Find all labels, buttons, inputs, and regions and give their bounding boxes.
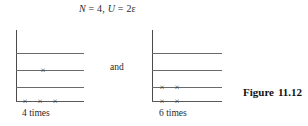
right-particle-marker: × [159, 97, 166, 106]
right-particle-marker: × [174, 97, 181, 106]
left-vertical-axis [16, 30, 17, 102]
figure-title: N = 4, U = 2ε [0, 3, 215, 14]
left-level-4 [16, 53, 84, 54]
left-energy-level-diagram: × × × × [16, 30, 84, 102]
right-particle-marker: × [174, 83, 181, 92]
title-energy-symbol: U [108, 3, 115, 14]
right-energy-level-diagram: × × × × [152, 30, 222, 102]
left-particle-marker: × [22, 97, 29, 106]
title-energy-value: = 2ε [118, 3, 136, 14]
left-level-3 [16, 70, 84, 71]
right-particle-marker: × [159, 83, 166, 92]
left-particle-marker: × [40, 66, 47, 75]
right-vertical-axis [152, 30, 153, 102]
figure-number-label: Figure [243, 86, 274, 98]
title-particles-symbol: N [79, 3, 86, 14]
right-diagram-caption: 6 times [159, 108, 187, 118]
figure-number: Figure11.12 [243, 86, 302, 98]
title-particles-value: = 4, [89, 3, 105, 14]
left-particle-marker: × [52, 97, 59, 106]
right-level-4 [152, 53, 222, 54]
left-diagram-caption: 4 times [22, 108, 50, 118]
conjunction-label: and [110, 62, 124, 72]
right-level-3 [152, 70, 222, 71]
left-level-2 [16, 87, 84, 88]
left-particle-marker: × [37, 97, 44, 106]
figure-container: N = 4, U = 2ε × × × × 4 times and × × × … [0, 0, 308, 126]
figure-number-value: 11.12 [278, 86, 302, 98]
